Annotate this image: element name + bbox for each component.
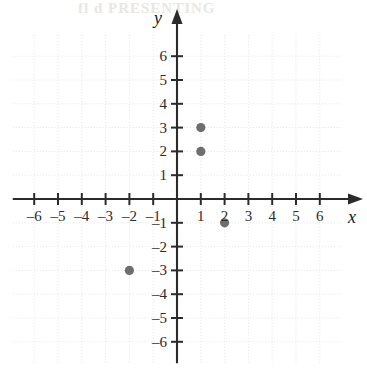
- data-point-marker: (1, 3): [196, 123, 205, 132]
- data-point-marker: (1, 2): [196, 147, 205, 156]
- y-tick-label: 6: [137, 49, 167, 64]
- scatter-plot-svg: (1, 3)(1, 2)(2, –1)(–2, –3): [0, 0, 367, 377]
- y-tick-label: 4: [137, 97, 167, 112]
- coordinate-plane-figure: fl d PRESENTING (1, 3)(1, 2)(2, –1)(–2, …: [0, 0, 367, 377]
- y-tick-label: 5: [137, 73, 167, 88]
- y-tick-label: –3: [137, 263, 167, 278]
- y-tick-label: –4: [137, 287, 167, 302]
- y-tick-label: –5: [137, 311, 167, 326]
- y-tick-label: –1: [137, 216, 167, 231]
- axes: [13, 20, 350, 363]
- x-axis-arrow-icon: [348, 194, 363, 205]
- y-axis-label: y: [154, 9, 162, 27]
- y-tick-label: –6: [137, 335, 167, 350]
- y-tick-label: 3: [137, 121, 167, 136]
- data-point-marker: (–2, –3): [125, 266, 134, 275]
- y-tick-label: –2: [137, 240, 167, 255]
- y-tick-label: 2: [137, 144, 167, 159]
- x-axis-label: x: [348, 208, 356, 226]
- y-axis-arrow-icon: [172, 9, 183, 24]
- x-tick-label: 6: [306, 209, 334, 224]
- y-tick-label: 1: [137, 168, 167, 183]
